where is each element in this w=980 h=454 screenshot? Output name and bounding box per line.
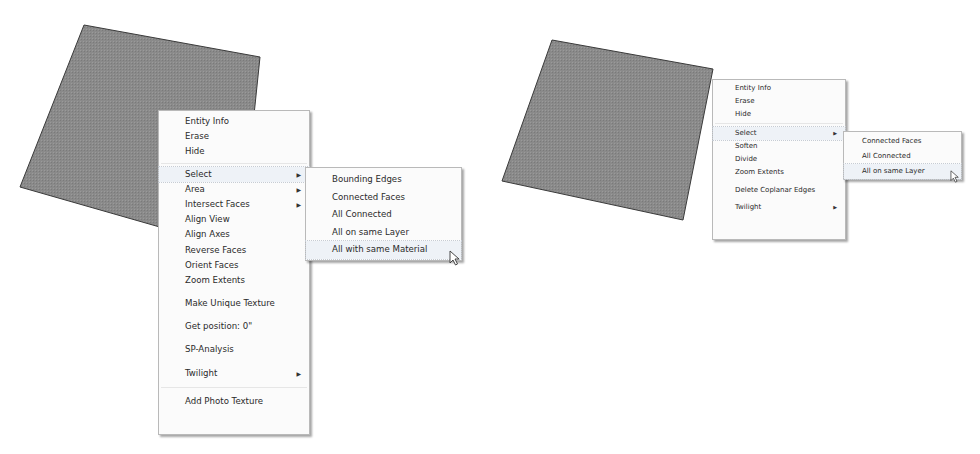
- submenu-item-connected-faces[interactable]: Connected Faces: [844, 134, 961, 149]
- submenu-item-bounding-edges[interactable]: Bounding Edges: [306, 171, 461, 189]
- menu-item-add-photo-texture[interactable]: Add Photo Texture: [159, 394, 309, 409]
- menu-item-label: Orient Faces: [185, 260, 238, 270]
- submenu-arrow-icon: ▶: [296, 182, 301, 197]
- menu-item-twilight[interactable]: Twilight▶: [713, 201, 845, 214]
- select-submenu-right: Connected Faces All Connected All on sam…: [843, 131, 962, 180]
- menu-item-align-axes[interactable]: Align Axes: [159, 227, 309, 242]
- menu-item-entity-info[interactable]: Entity Info: [713, 82, 845, 95]
- menu-item-soften[interactable]: Soften: [713, 140, 845, 153]
- menu-item-hide[interactable]: Hide: [713, 108, 845, 121]
- menu-item-erase[interactable]: Erase: [159, 129, 309, 144]
- submenu-arrow-icon: ▶: [296, 167, 301, 182]
- menu-item-label: Hide: [735, 110, 751, 118]
- menu-item-label: Intersect Faces: [185, 199, 250, 209]
- submenu-arrow-icon: ▶: [833, 127, 837, 140]
- menu-item-label: All with same Material: [332, 244, 427, 254]
- menu-item-zoom-extents[interactable]: Zoom Extents: [159, 273, 309, 288]
- menu-item-get-position[interactable]: Get position: 0": [159, 319, 309, 334]
- menu-item-label: Add Photo Texture: [185, 396, 263, 406]
- menu-item-label: Zoom Extents: [185, 275, 245, 285]
- menu-item-label: All on same Layer: [862, 167, 925, 175]
- submenu-item-all-on-same-layer[interactable]: All on same Layer: [844, 164, 961, 179]
- submenu-arrow-icon: ▶: [296, 197, 301, 212]
- menu-item-label: Reverse Faces: [185, 245, 246, 255]
- menu-item-label: SP-Analysis: [185, 344, 234, 354]
- menu-item-label: Entity Info: [185, 116, 229, 126]
- menu-item-sp-analysis[interactable]: SP-Analysis: [159, 342, 309, 357]
- menu-item-label: Area: [185, 184, 205, 194]
- menu-item-select[interactable]: Select▶: [159, 167, 309, 182]
- menu-item-label: Soften: [735, 142, 758, 150]
- menu-item-label: Select: [735, 129, 757, 137]
- menu-item-label: Bounding Edges: [332, 174, 402, 184]
- menu-item-label: Align View: [185, 214, 230, 224]
- submenu-item-all-connected[interactable]: All Connected: [844, 149, 961, 164]
- submenu-item-all-on-same-layer[interactable]: All on same Layer: [306, 224, 461, 242]
- menu-item-label: Make Unique Texture: [185, 298, 275, 308]
- selected-face-right[interactable]: [502, 40, 713, 220]
- submenu-item-all-with-same-material[interactable]: All with same Material: [306, 241, 461, 259]
- context-menu-right: Entity Info Erase Hide Select▶ Soften Di…: [712, 79, 846, 240]
- menu-item-label: Connected Faces: [862, 137, 921, 145]
- menu-separator: [161, 163, 307, 164]
- menu-item-label: Divide: [735, 155, 757, 163]
- menu-item-zoom-extents[interactable]: Zoom Extents: [713, 166, 845, 179]
- menu-item-twilight[interactable]: Twilight▶: [159, 366, 309, 381]
- menu-item-erase[interactable]: Erase: [713, 95, 845, 108]
- menu-item-divide[interactable]: Divide: [713, 153, 845, 166]
- menu-item-make-unique-texture[interactable]: Make Unique Texture: [159, 296, 309, 311]
- submenu-arrow-icon: ▶: [296, 366, 301, 381]
- menu-item-label: Connected Faces: [332, 192, 405, 202]
- submenu-arrow-icon: ▶: [833, 201, 837, 214]
- submenu-item-connected-faces[interactable]: Connected Faces: [306, 189, 461, 207]
- menu-item-label: All on same Layer: [332, 227, 409, 237]
- menu-item-label: Zoom Extents: [735, 168, 784, 176]
- menu-item-area[interactable]: Area▶: [159, 182, 309, 197]
- menu-item-select[interactable]: Select▶: [713, 127, 845, 140]
- menu-item-label: Align Axes: [185, 229, 230, 239]
- menu-item-label: Erase: [185, 131, 209, 141]
- menu-item-label: All Connected: [862, 152, 911, 160]
- menu-item-hide[interactable]: Hide: [159, 144, 309, 159]
- menu-item-intersect-faces[interactable]: Intersect Faces▶: [159, 197, 309, 212]
- menu-item-label: Hide: [185, 146, 205, 156]
- menu-item-entity-info[interactable]: Entity Info: [159, 114, 309, 129]
- menu-item-label: Entity Info: [735, 84, 771, 92]
- menu-item-label: Get position: 0": [185, 321, 252, 331]
- menu-item-label: All Connected: [332, 209, 392, 219]
- select-submenu-left: Bounding Edges Connected Faces All Conne…: [305, 167, 462, 261]
- menu-item-orient-faces[interactable]: Orient Faces: [159, 258, 309, 273]
- menu-separator: [161, 387, 307, 388]
- menu-item-label: Twilight: [185, 368, 217, 378]
- menu-item-align-view[interactable]: Align View: [159, 212, 309, 227]
- menu-item-label: Delete Coplanar Edges: [735, 186, 815, 194]
- context-menu-left: Entity Info Erase Hide Select▶ Area▶ Int…: [158, 110, 310, 435]
- menu-separator: [715, 123, 843, 124]
- submenu-item-all-connected[interactable]: All Connected: [306, 206, 461, 224]
- menu-item-label: Select: [185, 169, 212, 179]
- menu-item-delete-coplanar-edges[interactable]: Delete Coplanar Edges: [713, 184, 845, 197]
- menu-item-label: Erase: [735, 97, 755, 105]
- menu-item-label: Twilight: [735, 203, 761, 211]
- menu-item-reverse-faces[interactable]: Reverse Faces: [159, 243, 309, 258]
